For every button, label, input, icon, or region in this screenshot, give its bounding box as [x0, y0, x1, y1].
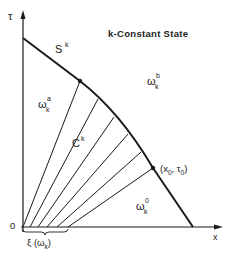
point-label-end: ) [184, 163, 187, 174]
region-a-label: ω a k [38, 99, 47, 110]
curve-label-sup: k [65, 41, 69, 48]
tau-axis-label: τ [8, 11, 12, 22]
point-label-tau: , τ [172, 163, 181, 174]
point-label-x: (x [160, 163, 168, 174]
interval-label-main: ξ (ω [27, 237, 44, 248]
region-b-sup: b [156, 72, 160, 79]
fan-label-sup: k [81, 135, 85, 142]
fan-label: Ck [72, 138, 80, 149]
point-label: (x0, τ0) [160, 164, 187, 177]
region-b-sub: k [155, 83, 159, 90]
x-axis-label: x [213, 233, 218, 242]
fan-label-main: C [72, 137, 80, 149]
upper-point-marker [78, 79, 82, 83]
region-b-label: ω b k [147, 76, 156, 87]
x0-tau0-point-marker [151, 166, 155, 170]
interval-label-end: ) [48, 237, 51, 248]
interval-label: ξ (ωk) [27, 238, 51, 251]
region-a-sub: k [46, 106, 50, 113]
region-a-sup: a [47, 95, 51, 102]
origin-label: 0 [10, 221, 15, 231]
tau-axis-arrow-icon [21, 10, 26, 19]
x-axis-arrow-icon [214, 225, 223, 230]
diagram-title: k-Constant State [108, 29, 188, 39]
region-zero-label: ω 0 k [136, 201, 145, 212]
curve-label: Sk [55, 44, 62, 55]
region-zero-sup: 0 [145, 197, 149, 204]
curve-label-main: S [55, 43, 62, 55]
region-zero-sub: k [144, 208, 148, 215]
interval-brace [22, 229, 68, 235]
